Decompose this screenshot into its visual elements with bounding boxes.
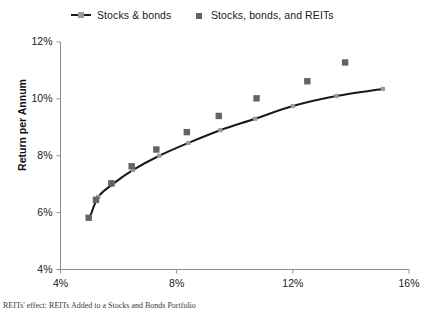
x-axis-ticks [61, 270, 410, 274]
plot-canvas [0, 0, 426, 313]
data-point-marker [334, 94, 338, 98]
x-tick-label: 4% [41, 277, 81, 289]
data-point-marker [128, 163, 134, 169]
data-point-marker [253, 117, 257, 121]
series-stocks-bonds [87, 87, 385, 221]
axis-lines [61, 42, 410, 270]
data-point-marker [186, 141, 190, 145]
data-point-marker [184, 129, 190, 135]
data-point-marker [342, 59, 348, 65]
data-point-marker [85, 215, 91, 221]
figure-caption: REITs' effect: REITs Added to a Stocks a… [3, 301, 423, 310]
data-point-marker [253, 95, 259, 101]
y-tick-label: 4% [19, 263, 53, 275]
chart-figure: Stocks & bonds Stocks, bonds, and REITs … [0, 0, 426, 313]
data-point-marker [291, 104, 295, 108]
data-point-marker [157, 154, 161, 158]
y-tick-label: 12% [19, 35, 53, 47]
data-point-marker [216, 113, 222, 119]
data-point-marker [93, 197, 99, 203]
x-tick-label: 12% [273, 277, 313, 289]
y-tick-label: 6% [19, 206, 53, 218]
data-point-marker [153, 146, 159, 152]
x-tick-label: 16% [389, 277, 426, 289]
data-point-marker [218, 128, 222, 132]
series-stocks-bonds-reits [85, 59, 348, 221]
data-point-marker [304, 78, 310, 84]
x-tick-label: 8% [157, 277, 197, 289]
y-axis-title: Return per Annum [16, 70, 28, 180]
data-point-marker [381, 87, 385, 91]
data-point-marker [108, 180, 114, 186]
y-axis-ticks [57, 42, 61, 270]
efficient-frontier-line [90, 89, 383, 218]
plot-area: 4%6%8%10%12% 4%8%12%16% Return per Annum [0, 0, 426, 313]
